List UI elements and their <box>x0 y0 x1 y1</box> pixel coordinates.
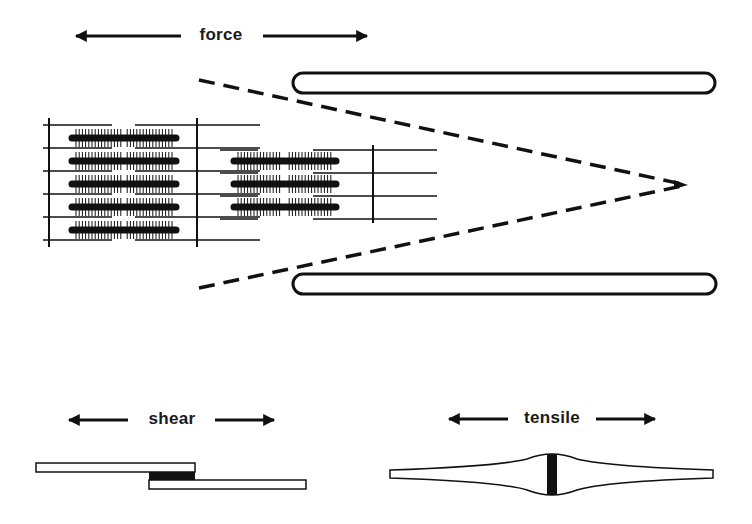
capsule-bars <box>293 73 716 294</box>
thick-filament <box>72 175 176 193</box>
tensile-bond-layer <box>547 454 557 495</box>
dashed-line-top <box>199 80 682 184</box>
capsule-top <box>293 73 715 93</box>
adhesive-layer <box>149 472 195 480</box>
force-label: force <box>199 25 242 45</box>
thick-filament <box>234 152 336 170</box>
thick-filament <box>72 152 176 170</box>
thick-filament <box>234 175 336 193</box>
sarcomere-left <box>43 118 260 247</box>
shear-label: shear <box>149 409 196 429</box>
capsule-bottom <box>293 274 716 294</box>
tensile-specimen <box>390 454 713 495</box>
muscle-mechanics-diagram: force shear tensile <box>0 0 752 524</box>
tensile-label: tensile <box>524 408 580 428</box>
shear-top-bar <box>36 463 195 472</box>
thick-filament <box>72 221 176 239</box>
thick-filament <box>72 198 176 216</box>
thick-filament <box>234 198 336 216</box>
apex-arrowhead-icon <box>674 180 688 189</box>
sarcomere-right <box>220 145 437 223</box>
shear-specimen <box>36 463 306 489</box>
diagram-canvas <box>0 0 752 524</box>
shear-bottom-bar <box>149 480 306 489</box>
thick-filament <box>72 129 176 147</box>
